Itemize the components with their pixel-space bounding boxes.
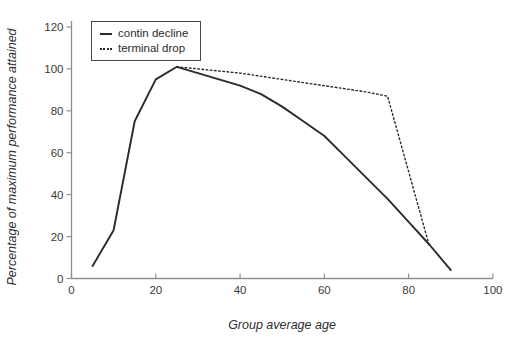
terminal-drop-line (177, 67, 430, 247)
chart-figure: 020406080100020406080100120 contin decli… (0, 0, 519, 345)
legend-label-terminal-drop: terminal drop (118, 41, 185, 56)
x-axis-label: Group average age (228, 318, 336, 332)
x-tick-label: 80 (402, 284, 415, 296)
x-tick-label: 0 (68, 284, 74, 296)
y-tick-label: 60 (51, 147, 64, 159)
legend-item-contin-decline: contin decline (100, 26, 192, 41)
y-tick-label: 0 (57, 273, 63, 285)
dotted-line-swatch-icon (100, 48, 112, 50)
x-tick-label: 40 (234, 284, 247, 296)
y-tick-label: 40 (51, 189, 64, 201)
x-tick-label: 100 (483, 284, 502, 296)
y-axis-label: Percentage of maximum performance attain… (5, 28, 19, 285)
x-tick-label: 60 (318, 284, 331, 296)
y-tick-label: 20 (51, 231, 64, 243)
solid-line-swatch-icon (100, 33, 112, 35)
y-tick-label: 100 (44, 63, 63, 75)
x-tick-label: 20 (149, 284, 162, 296)
line-chart-canvas: 020406080100020406080100120 (0, 0, 519, 345)
y-tick-label: 120 (44, 21, 63, 33)
legend-item-terminal-drop: terminal drop (100, 41, 192, 56)
y-tick-label: 80 (51, 105, 64, 117)
contin-decline-line (93, 67, 451, 270)
legend: contin decline terminal drop (91, 21, 201, 61)
legend-label-contin-decline: contin decline (118, 26, 188, 41)
